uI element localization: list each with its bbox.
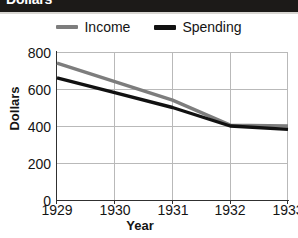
x-tick-label: 1932	[207, 203, 253, 217]
x-tick-label: 1933	[265, 203, 298, 217]
x-tick-label: 1931	[150, 203, 196, 217]
y-axis-tick-labels: 800 600 400 200 0	[3, 52, 51, 200]
x-axis-tick-labels: 1929 1930 1931 1932 1933	[0, 203, 298, 219]
title-banner-text: Dollars	[6, 0, 52, 7]
x-axis-title: Year	[0, 218, 280, 233]
legend-entry-income: Income	[56, 20, 130, 34]
legend-swatch-income	[56, 25, 78, 29]
title-banner: Dollars	[0, 0, 298, 12]
chart-legend: Income Spending	[0, 18, 298, 36]
legend-entry-spending: Spending	[154, 20, 241, 34]
x-tick-label: 1929	[34, 203, 80, 217]
y-tick-label: 400	[5, 120, 51, 134]
y-tick-label: 600	[5, 83, 51, 97]
x-axis-tick	[172, 200, 173, 204]
y-tick-label: 800	[5, 46, 51, 60]
x-axis-tick	[287, 200, 288, 204]
line-series-spending	[57, 78, 288, 129]
banner-divider	[0, 12, 298, 14]
legend-label-spending: Spending	[182, 20, 241, 34]
legend-label-income: Income	[84, 20, 130, 34]
x-axis-tick	[56, 200, 57, 204]
x-axis-tick	[114, 200, 115, 204]
plot-area	[57, 52, 288, 200]
x-tick-label: 1930	[92, 203, 138, 217]
y-tick-label: 200	[5, 157, 51, 171]
series-lines	[57, 52, 288, 200]
x-axis-tick	[230, 200, 231, 204]
legend-swatch-spending	[154, 25, 176, 30]
line-series-income	[57, 63, 288, 126]
chart-figure: Dollars Income Spending Dollars Year 800…	[0, 0, 298, 238]
